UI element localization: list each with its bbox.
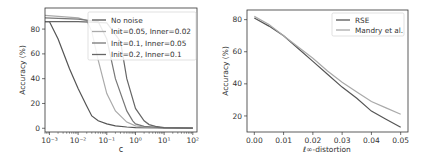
left-y-ticks: 020406080: [30, 25, 45, 133]
right-x-axis-label: ℓ∞-distortion: [302, 145, 351, 154]
x-tick-label: 10¹: [158, 136, 171, 145]
x-tick-label: 0.02: [305, 136, 322, 145]
y-tick-label: 60: [232, 47, 242, 56]
x-tick-label: 0.00: [246, 136, 263, 145]
right-y-axis-label: Accuracy (%): [221, 46, 230, 96]
x-tick-label: 10⁻²: [70, 136, 87, 145]
x-tick-label: 0.03: [334, 136, 351, 145]
right-legend: RSEMandry et al.: [332, 13, 404, 36]
x-tick-label: 10⁰: [129, 136, 142, 145]
left-chart: 020406080 10⁻³10⁻²10⁻¹10⁰10¹10² c Accura…: [18, 8, 199, 154]
legend-label: Mandry et al.: [355, 26, 403, 35]
x-tick-label: 10⁻¹: [99, 136, 116, 145]
legend-label: Init=0.2, Inner=0.1: [111, 50, 182, 59]
left-y-axis-label: Accuracy (%): [18, 45, 27, 95]
legend-label: No noise: [111, 16, 143, 25]
y-tick-label: 0: [35, 124, 40, 133]
left-legend: No noiseInit=0.05, Inner=0.02Init=0.1, I…: [88, 12, 196, 60]
x-tick-label: 0.05: [392, 136, 409, 145]
y-tick-label: 20: [232, 112, 242, 121]
right-y-ticks: 20406080: [232, 15, 247, 120]
x-tick-label: 10⁻³: [41, 136, 58, 145]
y-tick-label: 40: [232, 79, 242, 88]
y-tick-label: 60: [30, 49, 40, 58]
x-tick-label: 10²: [187, 136, 200, 145]
legend-label: Init=0.1, Inner=0.05: [111, 39, 186, 48]
x-tick-label: 0.04: [363, 136, 380, 145]
x-tick-label: 0.01: [275, 136, 292, 145]
legend-label: Init=0.05, Inner=0.02: [111, 27, 191, 36]
y-tick-label: 80: [232, 15, 242, 24]
right-x-ticks: 0.000.010.020.030.040.05: [246, 132, 409, 145]
right-chart: 20406080 0.000.010.020.030.040.05 ℓ∞-dis…: [221, 10, 409, 154]
y-tick-label: 80: [30, 25, 40, 34]
left-x-ticks: 10⁻³10⁻²10⁻¹10⁰10¹10²: [41, 132, 199, 145]
legend-label: RSE: [355, 16, 370, 25]
y-tick-label: 20: [30, 99, 40, 108]
left-x-axis-label: c: [119, 145, 123, 154]
figure: 020406080 10⁻³10⁻²10⁻¹10⁰10¹10² c Accura…: [0, 0, 427, 164]
y-tick-label: 40: [30, 74, 40, 83]
